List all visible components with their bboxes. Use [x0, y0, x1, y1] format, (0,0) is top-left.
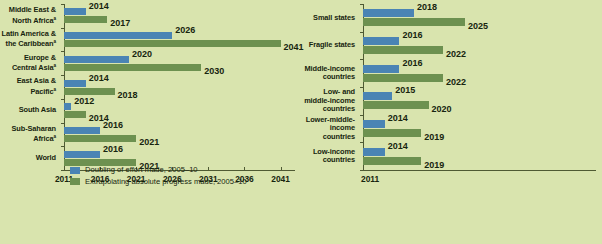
bar-value-label: 2016 — [103, 145, 123, 154]
bar-value-label: 2014 — [388, 114, 408, 123]
category-label: Middle-income countries — [301, 59, 359, 87]
category-label: Europe & Central Asiaa — [0, 51, 60, 75]
bar-value-label: 2019 — [424, 133, 444, 142]
bar-extrapolating — [64, 16, 107, 23]
bar-doubling — [363, 9, 414, 17]
bar-value-label: 2016 — [402, 59, 422, 68]
legend-item-doubling: Doubling of effort made, 2005–10 — [70, 165, 247, 176]
bar-value-label: 2022 — [446, 78, 466, 87]
y-axis-tick — [61, 99, 64, 100]
bar-value-label: 2015 — [395, 86, 415, 95]
category-label: South Asia — [0, 99, 60, 123]
y-axis-line — [363, 4, 364, 170]
bar-value-label: 2018 — [417, 3, 437, 12]
y-axis-tick — [360, 87, 363, 88]
bar-value-label: 2014 — [89, 74, 109, 83]
y-axis-tick — [61, 51, 64, 52]
bar-value-label: 2018 — [118, 91, 138, 100]
bar-value-label: 2019 — [424, 161, 444, 170]
x-axis-tick-label: 2041 — [271, 174, 290, 184]
bar-doubling — [64, 151, 100, 158]
bar-value-label: 2012 — [74, 97, 94, 106]
bar-extrapolating — [363, 101, 429, 109]
category-label: Sub-Saharan Africaa — [0, 123, 60, 147]
y-axis-tick — [360, 59, 363, 60]
bar-extrapolating — [363, 157, 421, 165]
bar-value-label: 2014 — [388, 142, 408, 151]
y-axis-tick — [61, 123, 64, 124]
bar-doubling — [64, 127, 100, 134]
bar-extrapolating — [64, 135, 136, 142]
y-axis-tick — [360, 170, 363, 171]
bar-doubling — [363, 148, 385, 156]
category-label: Small states — [301, 4, 359, 32]
category-label: Low- and middle-income countries — [301, 87, 359, 115]
bar-doubling — [64, 8, 86, 15]
y-axis-tick — [61, 75, 64, 76]
category-label: Low-income countries — [301, 142, 359, 170]
bar-value-label: 2016 — [402, 31, 422, 40]
chart-page: 2011201620212026203120362041Middle East … — [0, 0, 602, 244]
y-axis-tick — [360, 32, 363, 33]
y-axis-tick — [61, 146, 64, 147]
category-label: Lower-middle-income countries — [301, 115, 359, 143]
y-axis-tick — [61, 4, 64, 5]
bar-extrapolating — [64, 111, 86, 118]
category-label: Latin America & the Caribbeana — [0, 28, 60, 52]
bar-value-label: 2020 — [432, 105, 452, 114]
legend-swatch-blue-icon — [70, 167, 80, 174]
bar-extrapolating — [363, 46, 443, 54]
y-axis-tick — [61, 170, 64, 171]
legend-swatch-green-icon — [70, 178, 80, 185]
bar-value-label: 2014 — [89, 2, 109, 11]
category-label: Fragile states — [301, 32, 359, 60]
bar-doubling — [64, 103, 71, 110]
legend-left: Doubling of effort made, 2005–10 Extrapo… — [70, 165, 247, 188]
chart-panel-left: 2011201620212026203120362041Middle East … — [0, 0, 301, 196]
bar-extrapolating — [64, 88, 115, 95]
category-label: Middle East & North Africaa — [0, 4, 60, 28]
bar-value-label: 2026 — [175, 26, 195, 35]
bar-doubling — [363, 65, 399, 73]
bar-value-label: 2021 — [139, 138, 159, 147]
bar-extrapolating — [64, 40, 281, 47]
bar-extrapolating — [64, 64, 201, 71]
bar-extrapolating — [363, 74, 443, 82]
bar-extrapolating — [363, 18, 465, 26]
chart-panel-right: 2011Small states20182025Fragile states20… — [301, 0, 602, 196]
bar-doubling — [363, 120, 385, 128]
x-axis-tick — [64, 167, 65, 170]
bar-value-label: 2017 — [110, 19, 130, 28]
bar-doubling — [363, 92, 392, 100]
x-axis-tick-label: 2011 — [361, 174, 379, 184]
plot-area-right: 2011Small states20182025Fragile states20… — [301, 0, 602, 172]
x-axis-tick — [281, 167, 282, 170]
x-axis-line — [363, 170, 596, 171]
plot-area-left: 2011201620212026203120362041Middle East … — [0, 0, 301, 172]
bar-value-label: 2030 — [204, 67, 224, 76]
legend-label-extrapolating: Extrapolating absolute progress made, 20… — [85, 177, 247, 188]
y-axis-tick — [360, 115, 363, 116]
y-axis-tick — [61, 28, 64, 29]
legend-label-doubling: Doubling of effort made, 2005–10 — [85, 165, 198, 176]
bar-value-label: 2025 — [468, 22, 488, 31]
bar-doubling — [64, 32, 172, 39]
bar-doubling — [363, 37, 399, 45]
bar-extrapolating — [363, 129, 421, 137]
category-label: East Asia & Pacifica — [0, 75, 60, 99]
y-axis-tick — [360, 142, 363, 143]
category-label: World — [0, 146, 60, 170]
bar-value-label: 2020 — [132, 50, 152, 59]
bar-doubling — [64, 56, 129, 63]
legend-item-extrapolating: Extrapolating absolute progress made, 20… — [70, 177, 247, 188]
bar-doubling — [64, 80, 86, 87]
bar-value-label: 2016 — [103, 121, 123, 130]
y-axis-tick — [360, 4, 363, 5]
bar-value-label: 2022 — [446, 50, 466, 59]
